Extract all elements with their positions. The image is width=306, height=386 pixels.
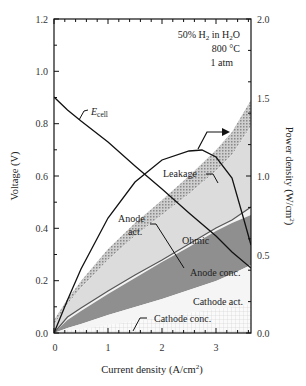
anode-act-label-line2: act.	[128, 226, 142, 237]
y2-axis-title: Power density (W/cm2)	[283, 127, 296, 226]
y-tick-0: 0.0	[36, 328, 49, 339]
condition-pressure: 1 atm	[211, 57, 234, 68]
x-axis-title: Current density (A/cm2)	[101, 363, 203, 376]
anode-act-label-line1: Anode	[118, 213, 145, 224]
y-tick-5: 1.0	[36, 66, 49, 77]
leakage-label: Leakage	[163, 168, 197, 179]
y2-tick-3: 1.5	[257, 93, 270, 104]
cathode-act-label: Cathode act.	[193, 296, 243, 307]
y-tick-4: 0.8	[36, 118, 49, 129]
y-tick-2: 0.4	[36, 223, 49, 234]
x-tick-labels: 0 1 2 3	[53, 342, 219, 353]
condition-temperature: 800 °C	[212, 43, 240, 54]
y-axis-title: Voltage (V)	[9, 151, 21, 201]
y2-tick-2: 1.0	[257, 171, 270, 182]
x-tick-1: 1	[106, 342, 111, 353]
y-tick-labels: 0.0 0.2 0.4 0.6 0.8 1.0 1.2	[36, 14, 49, 339]
fuel-cell-voltage-chart: 0.0 0.2 0.4 0.6 0.8 1.0 1.2 0.0 0.5 1.0 …	[0, 0, 306, 386]
y-tick-1: 0.2	[36, 275, 49, 286]
x-tick-3: 3	[214, 342, 219, 353]
condition-gas: 50% H2 in H2O	[178, 29, 240, 42]
x-tick-2: 2	[160, 342, 165, 353]
power-curve-leader	[198, 132, 222, 149]
y-tick-3: 0.6	[36, 171, 49, 182]
cathode-conc-label: Cathode conc.	[154, 313, 211, 324]
y2-tick-0: 0.0	[257, 328, 270, 339]
x-tick-0: 0	[53, 342, 58, 353]
y2-tick-labels: 0.0 0.5 1.0 1.5 2.0	[257, 14, 270, 339]
y-tick-6: 1.2	[36, 14, 49, 25]
y2-tick-4: 2.0	[257, 14, 270, 25]
y-axis-ticks	[54, 19, 59, 333]
y2-tick-1: 0.5	[257, 250, 270, 261]
ecell-label: Ecell	[90, 106, 108, 119]
anode-conc-label: Anode conc.	[190, 267, 241, 278]
ohmic-label: Ohmic	[182, 235, 210, 246]
arrow-right-icon	[222, 128, 230, 136]
ecell-leader	[79, 110, 88, 120]
